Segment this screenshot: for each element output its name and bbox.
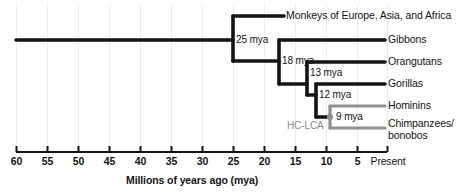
axis-tick-label-20: 20 [250, 155, 279, 167]
tip-label-chimpanzees-line2: bonobos [388, 130, 428, 142]
axis-tick-label-15: 15 [281, 155, 310, 167]
tip-label-orangutans: Orangutans [388, 56, 442, 68]
axis-tick-label-55: 55 [33, 155, 62, 167]
axis-tick-label-45: 45 [95, 155, 124, 167]
node-label-18mya: 18 mya [282, 55, 314, 66]
tip-label-hominins: Hominins [388, 100, 431, 112]
axis-tick-label-40: 40 [126, 155, 155, 167]
hc-lca-label: HC-LCA [287, 120, 324, 131]
hc-lca-node-dot [327, 114, 333, 120]
gridlines [17, 4, 388, 152]
node-label-9mya: 9 mya [336, 111, 363, 122]
axis-tick-label-25: 25 [219, 155, 248, 167]
tip-label-gorillas: Gorillas [388, 78, 423, 90]
phylogenetic-tree-figure: Monkeys of Europe, Asia, and Africa Gibb… [0, 0, 465, 195]
axis-title: Millions of years ago (mya) [126, 174, 258, 186]
node-label-13mya: 13 mya [310, 67, 342, 78]
time-axis [16, 146, 388, 152]
node-label-25mya: 25 mya [236, 34, 268, 45]
axis-tick-label-35: 35 [157, 155, 186, 167]
axis-tick-label-60: 60 [2, 155, 31, 167]
node-label-12mya: 12 mya [319, 89, 351, 100]
axis-tick-label-10: 10 [312, 155, 341, 167]
axis-tick-label-50: 50 [64, 155, 93, 167]
tip-label-monkeys: Monkeys of Europe, Asia, and Africa [286, 10, 451, 22]
tip-label-gibbons: Gibbons [388, 34, 426, 46]
axis-tick-label-present: Present [366, 155, 410, 167]
axis-tick-label-30: 30 [188, 155, 217, 167]
tip-label-chimpanzees-line1: Chimpanzees/ [388, 118, 454, 130]
